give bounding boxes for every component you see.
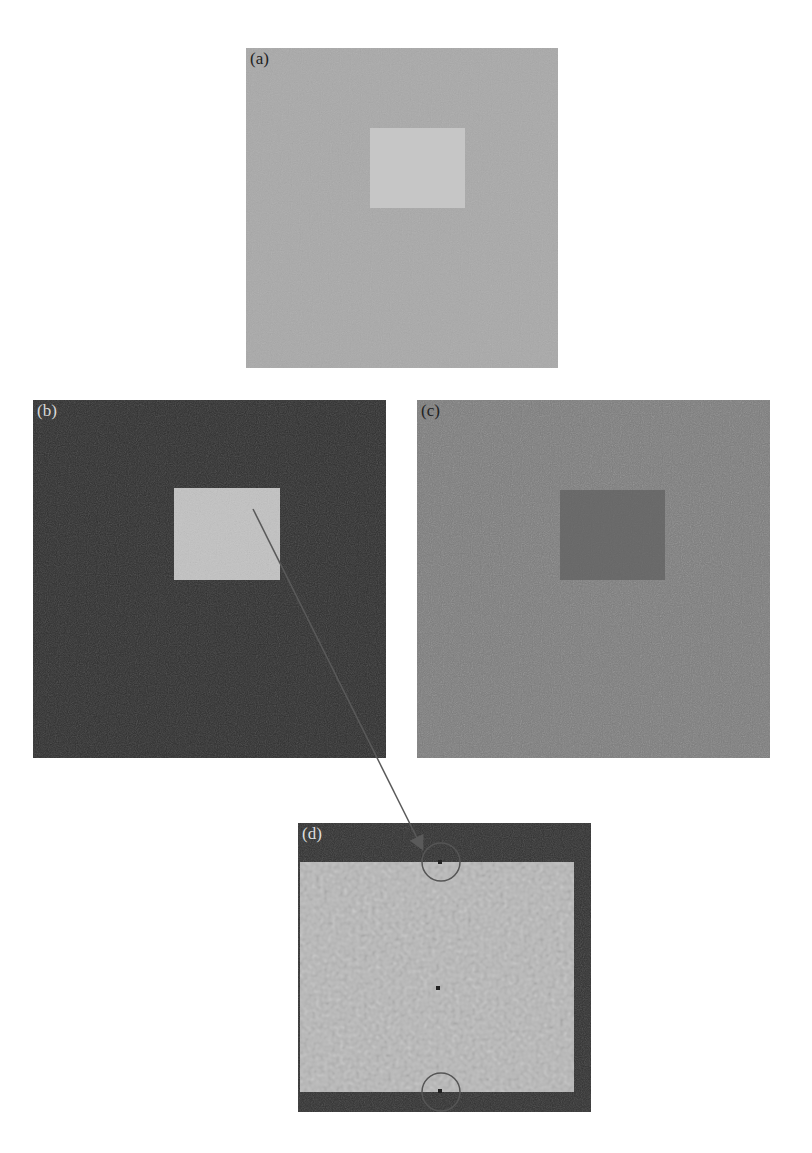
panel-c-image: (c) <box>417 400 770 758</box>
panel-c-inner-square <box>560 490 665 580</box>
panel-a-label: (a) <box>250 49 269 69</box>
panel-c-label: (c) <box>421 401 440 421</box>
noise-texture <box>246 48 558 368</box>
panel-d-label: (d) <box>302 824 322 844</box>
panel-b-inner-square <box>174 488 280 580</box>
panel-b-label: (b) <box>37 401 57 421</box>
panel-a-inner-square <box>370 128 465 208</box>
panel-b-image: (b) <box>33 400 386 758</box>
panel-a-image: (a) <box>246 48 558 368</box>
panel-d-image: (d) <box>298 823 591 1112</box>
panel-d-inner-region <box>300 862 574 1092</box>
